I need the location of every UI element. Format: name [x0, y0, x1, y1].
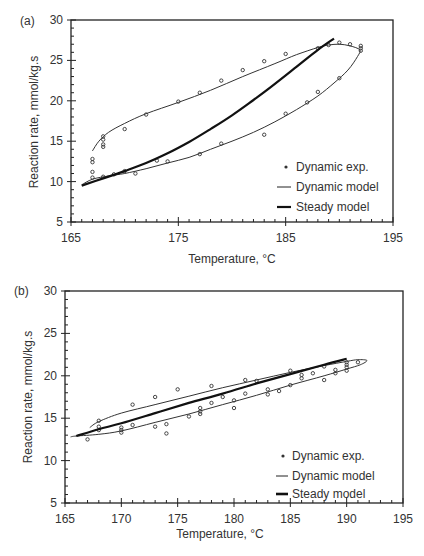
- data-point-dynamic-exp: [165, 432, 168, 435]
- x-tick-label: 195: [393, 512, 413, 526]
- y-tick-label: 25: [44, 326, 58, 340]
- legend-label-dynamic-exp: Dynamic exp.: [292, 449, 365, 463]
- x-axis-title: Temperature, °C: [176, 527, 264, 541]
- legend-marker-dynamic-exp: [281, 454, 284, 457]
- figure: (a) Reaction rate, mmol/kg.s Temperature…: [0, 0, 424, 556]
- chart-panel-b: (b) Reaction rate, mmol/kg.s Temperature…: [14, 284, 413, 541]
- data-point-dynamic-exp: [165, 422, 168, 425]
- y-tick-label: 10: [44, 454, 58, 468]
- x-axis-title: Temperature, °C: [188, 252, 276, 266]
- data-point-dynamic-exp: [153, 425, 156, 428]
- chart-panel-a: (a) Reaction rate, mmol/kg.s Temperature…: [20, 13, 403, 266]
- data-point-dynamic-exp: [86, 438, 89, 441]
- data-point-dynamic-exp: [220, 79, 223, 82]
- legend-label-dynamic-model: Dynamic model: [292, 469, 375, 483]
- data-point-dynamic-exp: [334, 368, 337, 371]
- y-axis-title: Reaction rate, mmol/kg.s: [21, 331, 35, 464]
- y-tick-label: 20: [44, 369, 58, 383]
- data-point-dynamic-exp: [316, 90, 319, 93]
- data-point-dynamic-exp: [131, 403, 134, 406]
- data-point-dynamic-exp: [187, 415, 190, 418]
- y-tick-label: 15: [44, 411, 58, 425]
- data-point-dynamic-exp: [277, 389, 280, 392]
- data-point-dynamic-exp: [263, 133, 266, 136]
- data-point-dynamic-exp: [221, 395, 224, 398]
- data-point-dynamic-exp: [123, 127, 126, 130]
- x-tick-label: 165: [55, 512, 75, 526]
- data-point-dynamic-exp: [311, 372, 314, 375]
- data-point-dynamic-exp: [284, 52, 287, 55]
- series-line-steady-model: [76, 359, 346, 436]
- y-tick-label: 30: [50, 13, 64, 27]
- data-point-dynamic-exp: [102, 145, 105, 148]
- data-point-dynamic-exp: [244, 378, 247, 381]
- legend: Dynamic exp. Dynamic model Steady model: [276, 449, 375, 501]
- legend-marker-dynamic-exp: [284, 165, 287, 168]
- data-point-dynamic-exp: [263, 60, 266, 63]
- y-tick-label: 5: [50, 496, 57, 510]
- y-axis-title: Reaction rate, mmol/kg.s: [27, 56, 41, 189]
- x-tick-label: 180: [224, 512, 244, 526]
- data-point-dynamic-exp: [153, 395, 156, 398]
- x-tick-label: 175: [168, 231, 188, 245]
- data-point-dynamic-exp: [241, 68, 244, 71]
- data-point-dynamic-exp: [199, 406, 202, 409]
- x-tick-label: 190: [337, 512, 357, 526]
- data-point-dynamic-exp: [322, 378, 325, 381]
- panel-label: (a): [20, 14, 35, 28]
- data-point-dynamic-exp: [232, 406, 235, 409]
- legend-label-steady-model: Steady model: [296, 200, 369, 214]
- data-point-dynamic-exp: [244, 392, 247, 395]
- data-point-dynamic-exp: [134, 172, 137, 175]
- x-tick-label: 195: [383, 231, 403, 245]
- y-tick-label: 30: [44, 284, 58, 298]
- y-tick-label: 5: [56, 215, 63, 229]
- data-point-dynamic-exp: [300, 373, 303, 376]
- data-point-dynamic-exp: [266, 393, 269, 396]
- data-point-dynamic-exp: [131, 423, 134, 426]
- y-tick-label: 20: [50, 94, 64, 108]
- x-tick-label: 185: [280, 512, 300, 526]
- legend-label-dynamic-exp: Dynamic exp.: [296, 160, 369, 174]
- panel-label: (b): [14, 284, 29, 298]
- y-tick-label: 25: [50, 53, 64, 67]
- data-point-dynamic-exp: [266, 388, 269, 391]
- legend-label-dynamic-model: Dynamic model: [296, 180, 379, 194]
- legend-label-steady-model: Steady model: [292, 487, 365, 501]
- data-point-dynamic-exp: [91, 170, 94, 173]
- legend: Dynamic exp. Dynamic model Steady model: [277, 160, 379, 214]
- y-tick-label: 15: [50, 134, 64, 148]
- data-point-dynamic-exp: [356, 361, 359, 364]
- data-point-dynamic-exp: [210, 384, 213, 387]
- x-tick-label: 175: [168, 512, 188, 526]
- x-tick-label: 185: [276, 231, 296, 245]
- data-point-dynamic-exp: [300, 377, 303, 380]
- data-point-dynamic-exp: [210, 401, 213, 404]
- y-tick-label: 10: [50, 175, 64, 189]
- data-point-dynamic-exp: [176, 388, 179, 391]
- x-tick-label: 170: [111, 512, 131, 526]
- x-tick-label: 165: [61, 231, 81, 245]
